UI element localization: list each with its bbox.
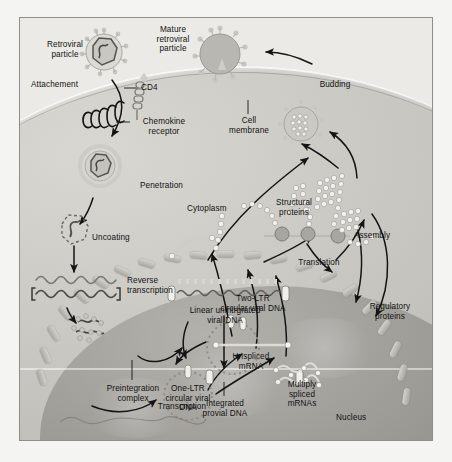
label-penetration: Penetration (140, 181, 202, 191)
uncoating-capsid (62, 215, 88, 244)
host-chromatin (60, 417, 206, 425)
ltr-left (32, 288, 35, 300)
ribosome (275, 227, 289, 241)
arrow-budding (302, 144, 338, 168)
budding-virion (278, 100, 324, 141)
preintegration-complex (72, 314, 104, 343)
structural-protein-chain (213, 213, 225, 251)
reverse-transcription-nucleic-acids (32, 277, 120, 301)
label-reverse-transcription: Reverse transcription (127, 276, 203, 295)
label-retroviral-particle: Retroviral particle (30, 40, 100, 59)
arrow-bud-to-virion (330, 132, 357, 178)
ribosome (301, 227, 315, 241)
label-transcription: Transcription (144, 402, 220, 412)
label-uncoating: Uncoating (92, 233, 150, 243)
arrow-to-one-ltr (176, 342, 206, 364)
label-unspliced-mrna: Unspliced mRNA (218, 352, 284, 371)
label-assembly: Assembly (346, 231, 398, 241)
label-budding: Budding (309, 80, 361, 90)
figure-canvas: Retroviral particle Mature retroviral pa… (0, 0, 452, 462)
label-regulatory-proteins: Regulatory proteins (356, 302, 424, 321)
label-translation: Translation (287, 258, 351, 268)
arrow-translation-to-regulatory (356, 230, 362, 302)
label-mature-retroviral-particle: Mature retroviral particle (143, 25, 203, 54)
arrow-regulatory-to-nucleus (372, 214, 388, 316)
label-cytoplasm: Cytoplasm (187, 204, 243, 214)
label-multiply-spliced-mrnas: Multiply spliced mRNAs (273, 380, 331, 409)
arrow-rt-to-pic (67, 308, 76, 323)
penetrating-virion (80, 146, 120, 186)
figure-frame: Retroviral particle Mature retroviral pa… (19, 17, 433, 441)
cd4-receptor (133, 73, 148, 120)
gag-precursor-strand (172, 238, 212, 256)
label-structural-proteins: Structural proteins (263, 198, 325, 217)
arrow-pic-to-linear-dna (138, 348, 182, 362)
assembly-cluster (339, 208, 360, 232)
arrow-attachment (112, 80, 122, 136)
arrow-penetration-to-uncoating (80, 198, 93, 224)
label-two-ltr-circular-viral-dna: Two-LTR circular viral DNA (201, 294, 305, 313)
label-cd4: CD4 (141, 83, 171, 93)
viral-dna-strand (36, 291, 116, 298)
label-cell-membrane: Cell membrane (220, 116, 278, 135)
viral-rna-strand (36, 277, 116, 284)
arrow-release-mature-particle (266, 52, 312, 64)
label-chemokine-receptor: Chemokine receptor (133, 117, 195, 136)
label-attachment: Attachement (31, 80, 103, 90)
label-nucleus: Nucleus (336, 413, 386, 423)
ltr-right (117, 288, 120, 300)
